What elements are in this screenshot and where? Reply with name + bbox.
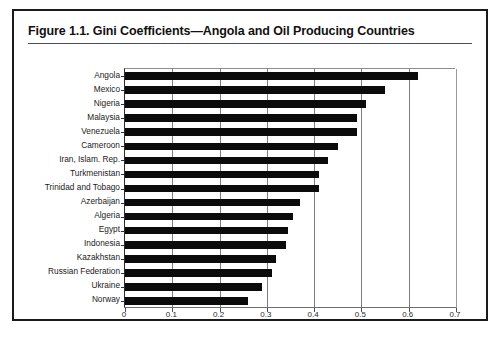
y-tick	[121, 231, 125, 232]
y-tick	[121, 118, 125, 119]
x-axis-label: 0.2	[204, 310, 234, 319]
y-tick	[121, 273, 125, 274]
gridline-0.7	[456, 69, 457, 308]
bar	[125, 227, 288, 235]
category-label: Angola	[16, 71, 120, 80]
category-axis-labels: AngolaMexicoNigeriaMalaysiaVenezuelaCame…	[14, 68, 120, 307]
bar	[125, 86, 385, 94]
category-label: Trinidad and Tobago	[16, 183, 120, 192]
category-label: Malaysia	[16, 113, 120, 122]
y-tick	[121, 146, 125, 147]
x-axis-label: 0.4	[298, 310, 328, 319]
bar	[125, 269, 272, 277]
category-label: Ukraine	[16, 281, 120, 290]
y-tick	[121, 189, 125, 190]
y-tick	[121, 301, 125, 302]
y-tick	[121, 104, 125, 105]
x-axis-line	[124, 307, 456, 308]
bar	[125, 157, 328, 165]
y-tick	[121, 160, 125, 161]
category-label: Kazakhstan	[16, 253, 120, 262]
category-label: Azerbaijan	[16, 197, 120, 206]
category-label: Indonesia	[16, 239, 120, 248]
bar	[125, 128, 357, 136]
bar	[125, 297, 248, 305]
category-label: Norway	[16, 295, 120, 304]
bar	[125, 283, 262, 291]
x-axis-label: 0	[109, 310, 139, 319]
y-tick	[121, 132, 125, 133]
title-divider	[28, 43, 472, 44]
category-label: Algeria	[16, 211, 120, 220]
y-tick	[121, 90, 125, 91]
bar	[125, 114, 357, 122]
y-tick	[121, 203, 125, 204]
bar	[125, 213, 293, 221]
gini-bar-chart: AngolaMexicoNigeriaMalaysiaVenezuelaCame…	[14, 57, 490, 319]
category-label: Cameroon	[16, 141, 120, 150]
category-label: Turkmenistan	[16, 169, 120, 178]
category-label: Russian Federation	[16, 267, 120, 276]
bar	[125, 143, 338, 151]
y-tick	[121, 245, 125, 246]
category-label: Mexico	[16, 85, 120, 94]
y-tick	[121, 76, 125, 77]
x-axis-label: 0.1	[156, 310, 186, 319]
x-axis-label: 0.3	[251, 310, 281, 319]
x-axis-label: 0.7	[440, 310, 470, 319]
bar	[125, 72, 418, 80]
x-axis-label: 0.6	[393, 310, 423, 319]
y-tick	[121, 217, 125, 218]
page-title: Figure 1.1. Gini Coefficients—Angola and…	[28, 23, 472, 39]
y-tick	[121, 174, 125, 175]
gridline-0.6	[409, 69, 410, 308]
bar	[125, 100, 366, 108]
figure-title-block: Figure 1.1. Gini Coefficients—Angola and…	[28, 23, 472, 44]
category-label: Venezuela	[16, 127, 120, 136]
category-label: Nigeria	[16, 99, 120, 108]
bar	[125, 241, 286, 249]
y-tick	[121, 287, 125, 288]
category-label: Egypt	[16, 225, 120, 234]
bar	[125, 199, 300, 207]
bar	[125, 171, 319, 179]
y-tick	[121, 259, 125, 260]
figure-frame: Figure 1.1. Gini Coefficients—Angola and…	[12, 9, 488, 321]
plot-area	[124, 68, 455, 307]
bar	[125, 255, 276, 263]
bar	[125, 185, 319, 193]
x-axis-label: 0.5	[345, 310, 375, 319]
category-label: Iran, Islam. Rep.	[16, 155, 120, 164]
